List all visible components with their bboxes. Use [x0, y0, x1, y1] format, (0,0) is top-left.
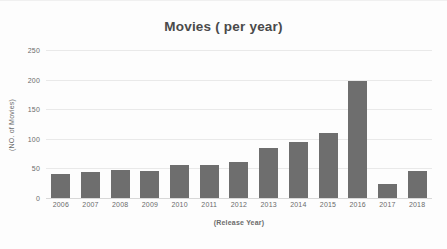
bar-2018[interactable] — [408, 171, 427, 198]
x-tick-label: 2011 — [194, 201, 224, 208]
bar-2006[interactable] — [51, 174, 70, 198]
bar-slot — [46, 50, 76, 198]
y-tick-label: 0 — [0, 195, 40, 202]
y-tick-label: 250 — [0, 47, 40, 54]
x-tick-label: 2006 — [46, 201, 76, 208]
bar-2017[interactable] — [378, 184, 397, 198]
bar-slot — [284, 50, 314, 198]
x-tick-label: 2012 — [224, 201, 254, 208]
x-tick-label: 2015 — [313, 201, 343, 208]
y-tick-label: 100 — [0, 135, 40, 142]
bar-slot — [254, 50, 284, 198]
x-axis-title: (Release Year) — [46, 219, 432, 226]
bar-slot — [165, 50, 195, 198]
y-tick-label: 150 — [0, 106, 40, 113]
bar-slot — [194, 50, 224, 198]
x-tick-label: 2014 — [284, 201, 314, 208]
bar-2009[interactable] — [140, 171, 159, 198]
bar-slot — [224, 50, 254, 198]
bar-2014[interactable] — [289, 142, 308, 198]
x-tick-label: 2018 — [402, 201, 432, 208]
bar-2015[interactable] — [319, 133, 338, 198]
bar-slot — [135, 50, 165, 198]
bar-2007[interactable] — [81, 172, 100, 198]
bar-slot — [402, 50, 432, 198]
bar-series — [46, 50, 432, 198]
bar-2013[interactable] — [259, 148, 278, 198]
x-tick-label: 2010 — [165, 201, 195, 208]
x-tick-label: 2007 — [76, 201, 106, 208]
bar-2010[interactable] — [170, 165, 189, 198]
chart-title: Movies ( per year) — [0, 19, 447, 34]
x-tick-label: 2017 — [373, 201, 403, 208]
x-tick-label: 2009 — [135, 201, 165, 208]
x-tick-label: 2008 — [105, 201, 135, 208]
bar-slot — [373, 50, 403, 198]
y-axis-tick-labels: 050100150200250 — [0, 50, 40, 198]
bar-chart-card: Movies ( per year) (NO. of Movies) 05010… — [0, 0, 447, 249]
x-tick-label: 2013 — [254, 201, 284, 208]
bar-2011[interactable] — [200, 165, 219, 198]
bar-2016[interactable] — [348, 81, 367, 198]
x-tick-label: 2016 — [343, 201, 373, 208]
bar-2008[interactable] — [111, 170, 130, 198]
y-tick-label: 200 — [0, 76, 40, 83]
bar-slot — [105, 50, 135, 198]
bar-slot — [76, 50, 106, 198]
bar-slot — [343, 50, 373, 198]
bar-2012[interactable] — [229, 162, 248, 198]
y-tick-label: 50 — [0, 165, 40, 172]
gridline-0 — [46, 198, 432, 199]
x-axis-tick-labels: 2006200720082009201020112012201320142015… — [46, 201, 432, 208]
bar-slot — [313, 50, 343, 198]
